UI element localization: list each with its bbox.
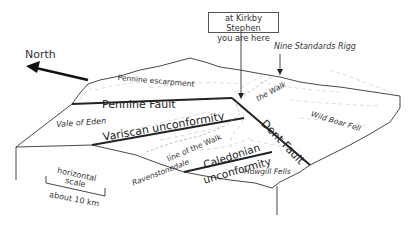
north-arrow-icon	[26, 61, 88, 80]
location-callout: at Kirkby Stephen you are here	[208, 12, 279, 33]
callout-line-1: at Kirkby Stephen	[209, 13, 278, 33]
nine-standards-pointer-icon	[277, 54, 283, 75]
pennine-fault-label: Pennine Fault	[102, 99, 176, 110]
callout-line-2: you are here	[209, 33, 278, 43]
howgill-fells-label: Howgill Fells	[244, 168, 291, 176]
nine-standards-rigg-label: Nine Standards Rigg	[274, 43, 356, 51]
north-label: North	[25, 49, 56, 60]
